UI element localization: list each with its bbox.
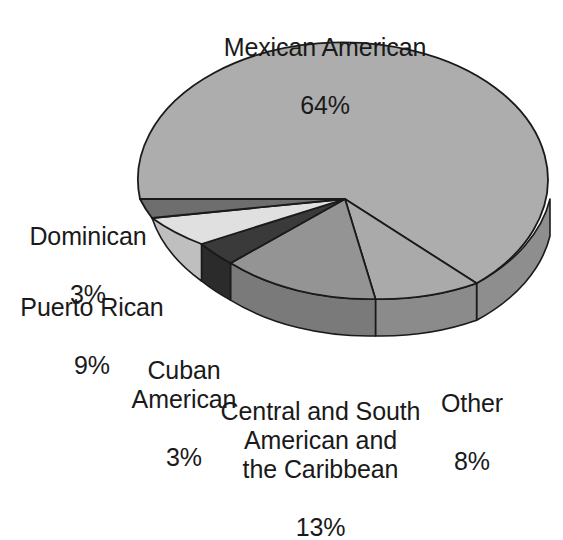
slice-label-name: Central and South American and the Carib… [208,397,433,484]
slice-label-value: 13% [208,513,433,540]
slice-label-value: 8% [414,447,530,476]
slice-label-value: 64% [200,91,450,120]
slice-label-name: Other [414,389,530,418]
slice-label-name: Dominican [0,222,178,251]
slice-label-mexican-american: Mexican American 64% [200,4,450,149]
slice-label-other: Other 8% [414,360,530,505]
slice-label-central-south-american-caribbean: Central and South American and the Carib… [208,368,433,540]
slice-label-name: Mexican American [200,33,450,62]
slice-label-name: Puerto Rican [2,293,182,322]
